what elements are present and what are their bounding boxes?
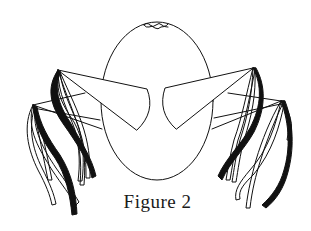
figure-caption: Figure 2 — [0, 191, 311, 213]
caption-text: Figure 2 — [124, 191, 192, 213]
